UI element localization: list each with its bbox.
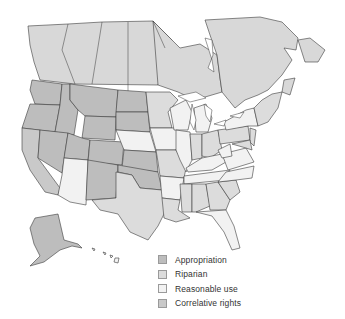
legend-label: Appropriation [175,255,227,265]
united-states [22,80,282,250]
legend: Appropriation Riparian Reasonable use Co… [158,253,241,311]
swatch-appropriation [158,255,167,264]
legend-item-appropriation: Appropriation [158,253,241,266]
legend-item-riparian: Riparian [158,268,241,281]
state-mississippi [180,184,192,212]
state-south-dakota [116,112,150,132]
legend-label: Correlative rights [175,298,241,308]
legend-item-correlative-rights: Correlative rights [158,297,241,310]
legend-label: Reasonable use [175,284,238,294]
state-washington [30,80,62,105]
state-new-england [254,92,282,126]
swatch-correlative-rights [158,299,167,308]
state-new-mexico [86,160,118,200]
state-new-york [224,108,258,130]
alaska [30,214,82,266]
swatch-riparian [158,270,167,279]
state-wyoming [82,116,116,140]
state-oregon [22,104,60,132]
legend-item-reasonable-use: Reasonable use [158,282,241,295]
legend-label: Riparian [175,269,207,279]
state-indiana [190,134,202,160]
state-florida [196,210,240,250]
swatch-reasonable-use [158,284,167,293]
hawaii [92,248,119,263]
state-north-dakota [116,90,148,112]
